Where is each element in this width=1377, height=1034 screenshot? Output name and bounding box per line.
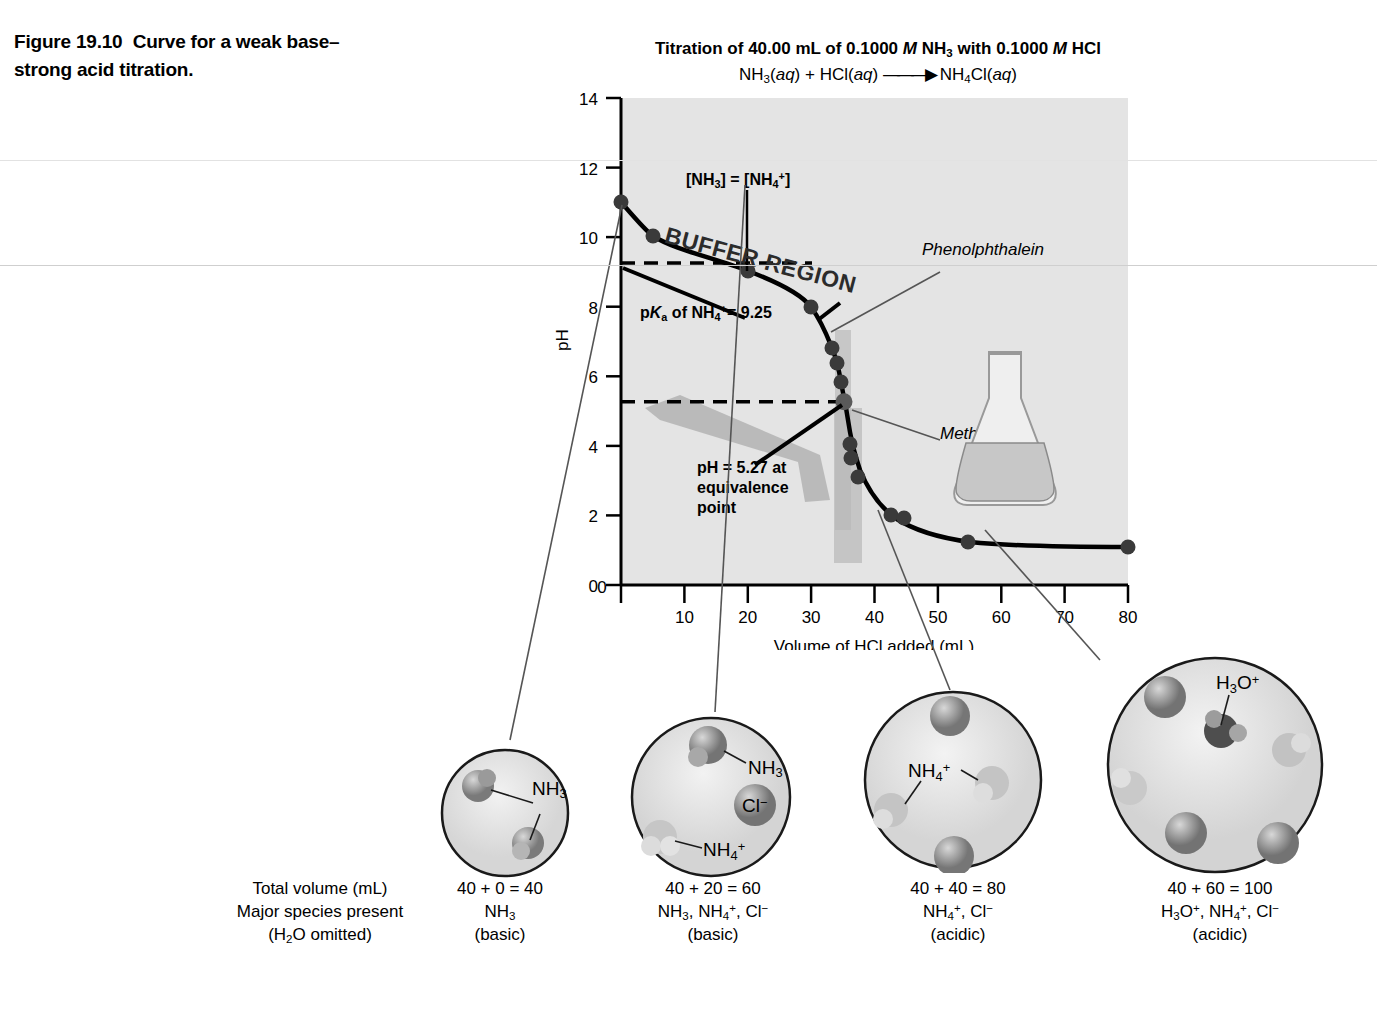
column-label-1: 40 + 0 = 40 NH3 (basic) (385, 878, 615, 947)
species-circle-1-label-nh3: NH3 (532, 778, 567, 801)
column-1-nature: (basic) (385, 924, 615, 947)
column-2-volume: 40 + 20 = 60 (588, 878, 838, 901)
column-4-volume: 40 + 60 = 100 (1090, 878, 1350, 901)
column-label-2: 40 + 20 = 60 NH3, NH4+, Cl− (basic) (588, 878, 838, 947)
column-label-4: 40 + 60 = 100 H3O+, NH4+, Cl− (acidic) (1090, 878, 1350, 947)
species-circle-1 (425, 748, 585, 878)
column-4-nature: (acidic) (1090, 924, 1350, 947)
scan-artifact-line-2 (0, 160, 1377, 161)
column-2-species: NH3, NH4+, Cl− (588, 901, 838, 924)
species-circle-2-label-nh4: NH4+ (703, 839, 745, 863)
column-label-3: 40 + 40 = 80 NH4+, Cl− (acidic) (838, 878, 1078, 947)
column-3-nature: (acidic) (838, 924, 1078, 947)
species-circle-3 (853, 688, 1058, 873)
species-circle-2-label-nh3: NH3 (748, 757, 783, 780)
species-circle-2-label-cl: Cl− (742, 795, 768, 817)
species-circle-3-label-nh4: NH4+ (908, 760, 950, 784)
column-3-species: NH4+, Cl− (838, 901, 1078, 924)
column-4-species: H3O+, NH4+, Cl− (1090, 901, 1350, 924)
column-1-species: NH3 (385, 901, 615, 924)
column-2-nature: (basic) (588, 924, 838, 947)
species-circle-4-label-h3o: H3O+ (1216, 672, 1259, 696)
column-1-volume: 40 + 0 = 40 (385, 878, 615, 901)
column-3-volume: 40 + 40 = 80 (838, 878, 1078, 901)
scan-artifact-line-1 (0, 265, 1377, 266)
